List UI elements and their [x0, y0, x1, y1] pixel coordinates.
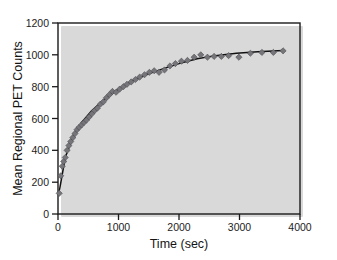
plot-frame-shadow: [61, 26, 303, 217]
y-tick-label: 600: [31, 113, 49, 125]
y-tick-label: 400: [31, 144, 49, 156]
y-tick-label: 800: [31, 81, 49, 93]
pet-time-activity-chart: 1200 1000 800 600 400 200 0 0 1000 2000 …: [0, 0, 337, 260]
x-axis-title: Time (sec): [150, 237, 209, 251]
y-tick-label: 1200: [26, 17, 50, 29]
y-axis-title: Mean Regional PET Counts: [11, 41, 25, 196]
y-tick-label: 1000: [26, 49, 50, 61]
x-tick-label: 2000: [167, 221, 191, 233]
x-tick-label: 0: [55, 221, 61, 233]
x-tick-label: 1000: [107, 221, 131, 233]
y-axis-ticks: [52, 23, 58, 214]
x-axis-tick-labels: 0 1000 2000 3000 4000: [55, 221, 312, 233]
x-tick-label: 4000: [288, 221, 312, 233]
y-tick-label: 200: [31, 176, 49, 188]
y-axis-tick-labels: 1200 1000 800 600 400 200 0: [26, 17, 50, 220]
x-tick-label: 3000: [228, 221, 252, 233]
chart-svg: 1200 1000 800 600 400 200 0 0 1000 2000 …: [0, 0, 337, 260]
y-tick-label: 0: [43, 208, 49, 220]
